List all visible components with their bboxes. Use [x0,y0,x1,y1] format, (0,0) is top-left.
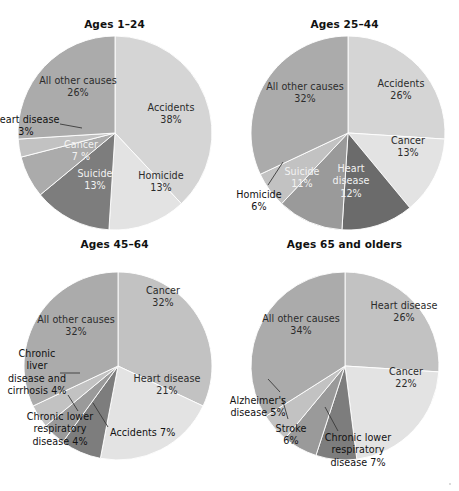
pie-label-cancer: Cancer 22% [368,366,444,391]
pie-label-all-other-causes: All other causes 32% [252,81,358,106]
pie-panel-ages-45-64: Ages 45–64 Cancer 32%Heart disease 21%Ac… [0,235,229,480]
pie-label-all-other-causes: All other causes 34% [248,313,354,338]
pie-label-accidents: Accidents 26% [358,78,444,103]
pie-label-all-other-causes: All other causes 32% [23,314,129,339]
pie-label-accidents-7: Accidents 7% [110,427,188,439]
pie-label-suicide: Suicide 11% [271,166,333,191]
pie-label-chronic-lower: Chronic lower respiratory disease 7% [310,432,406,469]
pie-label-chronic-lower: Chronic lower respiratory disease 4% [17,411,103,448]
pie-label-cancer: Cancer 13% [370,135,446,160]
pie-label-alzheimer-s: Alzheimer's disease 5% [211,395,305,420]
pie-panel-ages-1-24: Ages 1–24 Accidents 38%Homicide 13%Suici… [0,0,229,245]
pie-label-homicide: Homicide 6% [223,189,295,214]
pie-label-heart-disease: Heart disease 3% [0,114,60,139]
pie-label-homicide: Homicide 13% [125,170,197,195]
pie-panel-ages-65-and-olders: Ages 65 and olders Heart disease 26%Canc… [230,235,459,480]
pie-label-stroke: Stroke 6% [260,423,322,448]
page-speck [449,483,451,485]
pie-label-heart-disease: Heart disease 21% [118,373,216,398]
pie-label-heart-disease: Heart disease 26% [355,300,453,325]
pie-panel-ages-25-44: Ages 25–44 Accidents 26%Cancer 13%Heart … [230,0,459,245]
pie-label-suicide: Suicide 13% [62,168,128,193]
pie-label-accidents: Accidents 38% [128,102,214,127]
pie-label-cancer: Cancer 7 % [48,139,114,164]
pie-chart-figure: Ages 1–24 Accidents 38%Homicide 13%Suici… [0,0,459,491]
pie-label-all-other-causes: All other causes 26% [25,75,131,100]
pie-label-chronic: Chronic liver disease and cirrhosis 4% [0,348,79,398]
pie-label-cancer: Cancer 32% [125,285,201,310]
